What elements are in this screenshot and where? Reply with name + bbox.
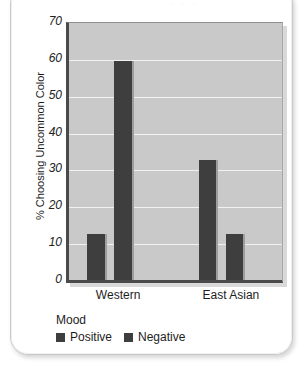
legend-items: PositiveNegative: [56, 330, 286, 344]
y-tick-20: 20: [28, 199, 62, 211]
legend-item-negative[interactable]: Negative: [124, 330, 185, 344]
y-tick-50: 50: [28, 89, 62, 101]
bar-western-positive[interactable]: [87, 234, 107, 280]
y-tick-30: 30: [28, 162, 62, 174]
bar-western-negative[interactable]: [114, 61, 134, 280]
plot-area: [66, 22, 283, 283]
legend-label-negative: Negative: [138, 330, 185, 344]
bar-east-asian-negative[interactable]: [226, 234, 246, 280]
x-label-east-asian: East Asian: [181, 288, 281, 302]
bar-east-asian-positive[interactable]: [199, 160, 219, 280]
legend-title: Mood: [56, 313, 286, 327]
y-tick-60: 60: [28, 52, 62, 64]
legend-item-positive[interactable]: Positive: [56, 330, 112, 344]
y-tick-0: 0: [28, 273, 62, 285]
y-tick-10: 10: [28, 236, 62, 248]
y-tick-40: 40: [28, 126, 62, 138]
x-label-western: Western: [68, 288, 168, 302]
legend-swatch-negative-icon: [124, 333, 133, 342]
y-tick-70: 70: [28, 15, 62, 27]
legend-label-positive: Positive: [70, 330, 112, 344]
legend: Mood PositiveNegative: [56, 313, 286, 344]
x-axis-category-labels: WesternEast Asian: [66, 288, 283, 306]
bar-series-group: [69, 23, 282, 280]
legend-swatch-positive-icon: [56, 333, 65, 342]
bar-chart-figure: % Choosing Uncommon Color 70605040302010…: [0, 0, 305, 371]
